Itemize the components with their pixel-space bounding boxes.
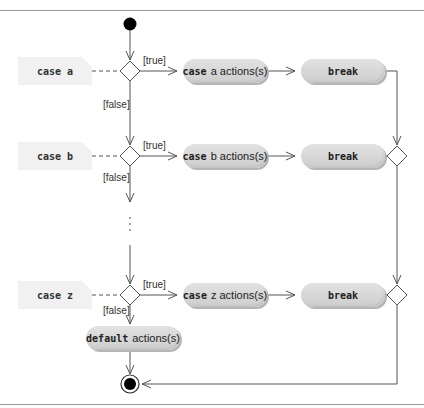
false-guard-b: [false] — [103, 172, 130, 183]
decision-diamond-z — [120, 285, 140, 305]
case-z-actions: casez actions(s) — [183, 283, 267, 307]
case-note-a: case a — [18, 57, 92, 85]
break-z: break — [301, 283, 385, 307]
case-note-z: case z — [18, 281, 92, 309]
case-b-actions: caseb actions(s) — [183, 144, 267, 168]
note-fold-icon — [82, 281, 92, 291]
break-a: break — [301, 59, 385, 83]
decision-diamond-a — [120, 61, 140, 81]
false-guard-z: [false] — [103, 305, 130, 316]
false-guard-a: [false] — [103, 99, 130, 110]
final-node — [121, 375, 139, 393]
case-a-actions: casea actions(s) — [183, 59, 267, 83]
note-fold-icon — [82, 142, 92, 152]
merge-diamond-b — [387, 146, 407, 166]
true-guard-z: [true] — [143, 279, 166, 290]
decision-diamond-b — [120, 146, 140, 166]
initial-node — [124, 18, 137, 31]
break-b: break — [301, 144, 385, 168]
default-actions: defaultactions(s) — [86, 326, 180, 350]
note-fold-icon — [82, 57, 92, 67]
merge-diamond-z — [387, 285, 407, 305]
true-guard-a: [true] — [143, 55, 166, 66]
case-note-b: case b — [18, 142, 92, 170]
true-guard-b: [true] — [143, 140, 166, 151]
